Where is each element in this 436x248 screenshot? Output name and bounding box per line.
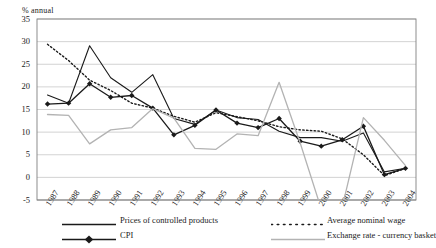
- grey-line-icon: [271, 235, 325, 244]
- chart-legend: Prices of controlled products CPI Averag…: [0, 214, 433, 248]
- legend-label: Average nominal wage: [327, 216, 405, 225]
- solid-black-line-icon: [62, 220, 116, 229]
- black-diamond-line-icon: [62, 235, 116, 244]
- dotted-line-icon: [271, 220, 325, 229]
- legend-label: Exchange rate - currency basket: [327, 231, 436, 240]
- legend-label: CPI: [120, 231, 133, 240]
- legend-label: Prices of controlled products: [120, 216, 218, 225]
- data-series-group: [45, 44, 408, 209]
- grid-lines: [37, 19, 416, 200]
- series-line-1: [45, 81, 408, 177]
